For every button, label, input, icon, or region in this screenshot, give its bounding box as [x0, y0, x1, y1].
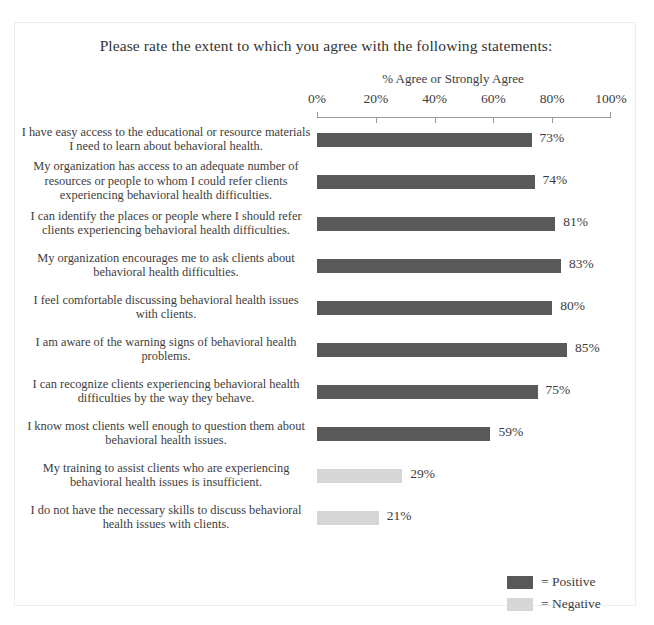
category-label: I have easy access to the educational or… [21, 125, 311, 154]
bar-row[interactable]: 81% [317, 202, 611, 244]
x-axis-tick-labels: 0%20%40%60%80%100% [317, 91, 611, 111]
category-label: I can recognize clients experiencing beh… [21, 377, 311, 406]
category-label: I know most clients well enough to quest… [21, 419, 311, 448]
category-label-row: I know most clients well enough to quest… [21, 412, 311, 454]
legend-item-negative: = Negative [507, 593, 627, 615]
category-label-row: I have easy access to the educational or… [21, 118, 311, 160]
category-label-row: I feel comfortable discussing behavioral… [21, 286, 311, 328]
category-label-row: I can recognize clients experiencing beh… [21, 370, 311, 412]
bar-positive[interactable] [317, 259, 561, 273]
x-axis-tick-label: 60% [481, 91, 506, 107]
bar-positive[interactable] [317, 217, 555, 231]
bar-value-label: 75% [546, 382, 571, 398]
page-title: Please rate the extent to which you agre… [15, 37, 637, 55]
bar-positive[interactable] [317, 385, 538, 399]
category-label-row: My training to assist clients who are ex… [21, 454, 311, 496]
bar-row[interactable]: 83% [317, 244, 611, 286]
bar-value-label: 59% [498, 424, 523, 440]
bar-positive[interactable] [317, 133, 532, 147]
bar-value-label: 80% [560, 298, 585, 314]
bar-value-label: 81% [563, 214, 588, 230]
bar-row[interactable]: 75% [317, 370, 611, 412]
bar-positive[interactable] [317, 343, 567, 357]
x-axis-tick-label: 40% [422, 91, 447, 107]
category-label: I feel comfortable discussing behavioral… [21, 293, 311, 322]
bar-positive[interactable] [317, 427, 490, 441]
chart-page: Please rate the extent to which you agre… [0, 0, 654, 625]
bar-value-label: 74% [543, 172, 568, 188]
category-label-row: My organization encourages me to ask cli… [21, 244, 311, 286]
bar-value-label: 21% [387, 508, 412, 524]
bar-series: 73%74%81%83%80%85%75%59%29%21% [317, 118, 611, 538]
bar-value-label: 29% [410, 466, 435, 482]
category-label-column: I have easy access to the educational or… [21, 118, 311, 538]
legend-item-positive: = Positive [507, 571, 627, 593]
bar-value-label: 85% [575, 340, 600, 356]
category-label: I do not have the necessary skills to di… [21, 503, 311, 532]
legend-label-positive: = Positive [541, 574, 596, 590]
x-axis-tick-label: 20% [363, 91, 388, 107]
x-axis-tick-label: 0% [308, 91, 326, 107]
bar-negative[interactable] [317, 511, 379, 525]
figure-frame: Please rate the extent to which you agre… [14, 22, 636, 606]
category-label: My organization encourages me to ask cli… [21, 251, 311, 280]
chart-legend: = Positive = Negative [507, 571, 627, 615]
category-label-row: I am aware of the warning signs of behav… [21, 328, 311, 370]
bar-negative[interactable] [317, 469, 402, 483]
bar-row[interactable]: 73% [317, 118, 611, 160]
x-axis-title: % Agree or Strongly Agree [303, 71, 603, 87]
category-label-row: I can identify the places or people wher… [21, 202, 311, 244]
plot-area: 0%20%40%60%80%100% 73%74%81%83%80%85%75%… [317, 91, 611, 591]
bar-row[interactable]: 21% [317, 496, 611, 538]
legend-swatch-negative-icon [507, 598, 533, 611]
bar-row[interactable]: 74% [317, 160, 611, 202]
legend-swatch-positive-icon [507, 576, 533, 589]
bar-value-label: 73% [540, 130, 565, 146]
category-label-row: I do not have the necessary skills to di… [21, 496, 311, 538]
category-label: I am aware of the warning signs of behav… [21, 335, 311, 364]
category-label: My organization has access to an adequat… [21, 159, 311, 202]
category-label-row: My organization has access to an adequat… [21, 160, 311, 202]
x-axis-tick-label: 80% [540, 91, 565, 107]
bar-row[interactable]: 85% [317, 328, 611, 370]
bar-value-label: 83% [569, 256, 594, 272]
x-axis-tick-label: 100% [595, 91, 627, 107]
category-label: My training to assist clients who are ex… [21, 461, 311, 490]
category-label: I can identify the places or people wher… [21, 209, 311, 238]
bar-row[interactable]: 29% [317, 454, 611, 496]
bar-row[interactable]: 80% [317, 286, 611, 328]
bar-positive[interactable] [317, 301, 552, 315]
legend-label-negative: = Negative [541, 596, 601, 612]
bar-positive[interactable] [317, 175, 535, 189]
bar-row[interactable]: 59% [317, 412, 611, 454]
